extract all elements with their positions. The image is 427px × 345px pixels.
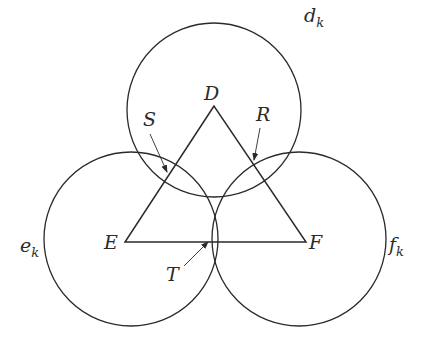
vertex-label-F: F — [308, 231, 323, 253]
vertex-label-E: E — [103, 231, 118, 253]
point-label-S: S — [143, 108, 156, 130]
vertex-label-D: D — [203, 82, 219, 104]
point-label-T: T — [166, 263, 180, 285]
circles-group — [44, 23, 386, 326]
arrow-to-point-S — [150, 134, 167, 172]
arrow-to-point-T — [184, 242, 208, 266]
arrow-to-point-R — [254, 128, 260, 160]
point-label-R: R — [255, 103, 270, 125]
circle-label-ek: ek — [20, 234, 39, 260]
circle-fk — [212, 152, 386, 326]
circle-ek — [44, 152, 218, 326]
geometry-diagram: dkekfkDEFSRT — [0, 0, 427, 345]
circle-label-fk: fk — [387, 233, 404, 259]
circle-label-dk: dk — [304, 4, 324, 30]
